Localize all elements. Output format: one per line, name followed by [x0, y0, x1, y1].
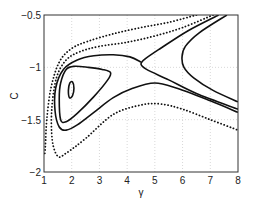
y-tick-label: −2 — [30, 167, 42, 178]
y-tick-label: −1.5 — [21, 115, 41, 126]
x-tick-label: 6 — [180, 175, 186, 186]
closed-orbit-curve — [59, 66, 111, 122]
right-branch-curve — [182, 15, 238, 102]
x-axis-label: γ — [139, 187, 144, 198]
x-tick-label: 4 — [124, 175, 130, 186]
x-tick-label: 3 — [97, 175, 103, 186]
y-tick-label: −0.5 — [21, 10, 41, 21]
x-tick-labels: 12345678 — [41, 175, 241, 186]
curves — [45, 15, 238, 157]
y-tick-label: −1 — [30, 62, 42, 73]
outer-dotted-curve — [45, 15, 197, 156]
x-tick-label: 2 — [69, 175, 75, 186]
inner-small-loop-curve — [68, 82, 74, 98]
y-axis-label: C — [9, 92, 20, 99]
y-tick-labels: −2−1.5−1−0.5 — [21, 10, 41, 178]
x-tick-label: 5 — [152, 175, 158, 186]
phase-plot: 12345678 −2−1.5−1−0.5 γ C — [0, 0, 253, 204]
x-tick-label: 7 — [208, 175, 214, 186]
x-tick-label: 1 — [41, 175, 47, 186]
x-tick-label: 8 — [235, 175, 241, 186]
